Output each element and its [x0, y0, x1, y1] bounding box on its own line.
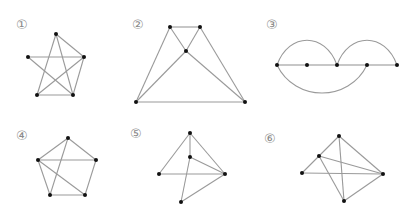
graph-vertex — [184, 49, 188, 53]
graph-figure-1 — [26, 32, 86, 97]
graph-vertex — [317, 154, 321, 158]
graph-vertex — [71, 93, 75, 97]
graph-arc-edge — [277, 40, 337, 65]
graph-vertex — [54, 32, 58, 36]
graph-figure-3 — [275, 40, 399, 93]
graph-edge — [319, 136, 339, 156]
graph-edge — [85, 160, 96, 195]
graph-vertex — [83, 193, 87, 197]
graph-vertex — [36, 158, 40, 162]
graph-vertex — [198, 25, 202, 29]
graph-edge — [319, 156, 344, 201]
graph-figure-5 — [157, 131, 227, 204]
graph-edge — [37, 57, 84, 95]
graph-vertex — [188, 131, 192, 135]
graph-edge — [190, 157, 225, 174]
graph-arc-edge — [337, 40, 397, 65]
graph-figure-4 — [36, 136, 98, 197]
graph-vertex — [188, 155, 192, 159]
graph-vertex — [300, 171, 304, 175]
graph-vertex — [168, 25, 172, 29]
graph-vertex — [395, 63, 399, 67]
graph-figure-6 — [300, 134, 385, 203]
graph-vertex — [157, 172, 161, 176]
graph-vertex — [223, 172, 227, 176]
graph-edge — [302, 156, 319, 173]
graph-vertex — [26, 55, 30, 59]
graph-edge — [56, 34, 73, 95]
graph-figure-2 — [134, 25, 247, 104]
graph-vertex — [94, 158, 98, 162]
graph-vertex — [48, 193, 52, 197]
graph-edge — [302, 173, 383, 174]
graph-edge — [190, 133, 225, 174]
graph-edge — [186, 51, 245, 102]
graph-edge — [37, 34, 56, 95]
graph-edge — [136, 27, 170, 102]
graph-edge — [28, 57, 73, 95]
graph-edge — [170, 27, 186, 51]
graph-diagrams — [0, 0, 419, 212]
graph-arc-edge — [277, 65, 367, 93]
graph-vertex — [66, 136, 70, 140]
graph-vertex — [134, 100, 138, 104]
graph-vertex — [35, 93, 39, 97]
graph-edge — [56, 34, 84, 57]
graph-vertex — [82, 55, 86, 59]
graph-vertex — [243, 100, 247, 104]
graph-vertex — [179, 200, 183, 204]
graph-vertex — [275, 63, 279, 67]
graph-edge — [68, 138, 96, 160]
graph-edge — [186, 27, 200, 51]
graph-edge — [181, 174, 225, 202]
graph-vertex — [337, 134, 341, 138]
graph-edge — [200, 27, 245, 102]
graph-vertex — [365, 63, 369, 67]
graph-edge — [38, 160, 85, 195]
graph-edge — [38, 138, 68, 160]
graph-vertex — [305, 63, 309, 67]
graph-edge — [73, 57, 84, 95]
graph-vertex — [342, 199, 346, 203]
graph-edge — [38, 160, 50, 195]
graph-vertex — [381, 172, 385, 176]
graph-edge — [181, 157, 190, 202]
graph-edge — [344, 174, 383, 201]
graph-edge — [159, 133, 190, 174]
graph-edge — [136, 51, 186, 102]
graph-vertex — [335, 63, 339, 67]
graph-edge — [50, 138, 68, 195]
graph-edge — [339, 136, 344, 201]
